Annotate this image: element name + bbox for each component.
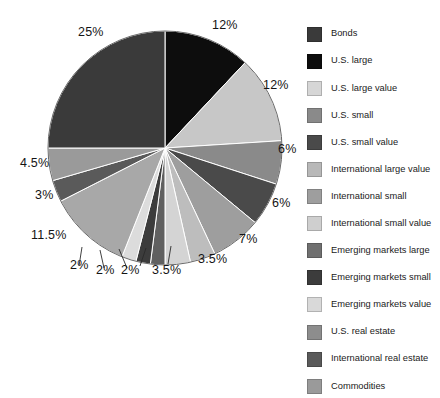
legend-item[interactable]: International small value [307, 216, 440, 232]
legend-item[interactable]: International small [307, 189, 440, 205]
legend-color-swatch-icon [307, 162, 322, 177]
legend-item-label: Emerging markets large [331, 246, 430, 255]
pie-slice-percentage-label: 6% [272, 196, 290, 210]
legend-item-label: International small value [331, 219, 431, 228]
legend-item-label: Bonds [331, 29, 357, 38]
legend-item[interactable]: Bonds [307, 26, 440, 42]
pie-slice-percentage-label: 7% [239, 232, 257, 246]
legend-item[interactable]: U.S. large value [307, 80, 440, 96]
pie-slice-percentage-label: 2% [121, 263, 139, 277]
pie-slice-percentage-label: 4.5% [20, 156, 49, 170]
legend-item-label: U.S. real estate [331, 327, 395, 336]
legend-item[interactable]: U.S. small [307, 107, 440, 123]
legend-color-swatch-icon [307, 297, 322, 312]
legend-item-label: Commodities [331, 382, 385, 391]
pie-slice-percentage-label: 3.5% [198, 252, 227, 266]
legend-item[interactable]: International large value [307, 161, 440, 177]
legend-color-swatch-icon [307, 189, 322, 204]
legend-item[interactable]: U.S. small value [307, 134, 440, 150]
pie-slice-percentage-label: 12% [263, 78, 289, 92]
legend-color-swatch-icon [307, 81, 322, 96]
legend-color-swatch-icon [307, 135, 322, 150]
legend-color-swatch-icon [307, 216, 322, 231]
legend-item-label: U.S. large value [331, 84, 397, 93]
legend-item[interactable]: U.S. large [307, 53, 440, 69]
legend-color-swatch-icon [307, 243, 322, 258]
legend-item[interactable]: U.S. real estate [307, 324, 440, 340]
legend-color-swatch-icon [307, 352, 322, 367]
pie-slice-percentage-label: 25% [78, 25, 104, 39]
legend-item[interactable]: Emerging markets value [307, 297, 440, 313]
legend-item-label: Emerging markets small [331, 273, 431, 282]
legend-item-label: U.S. large [331, 56, 372, 65]
legend-item-label: International real estate [331, 354, 428, 363]
legend-item-label: U.S. small [331, 111, 373, 120]
pie-slice-percentage-label: 2% [96, 263, 114, 277]
legend-item[interactable]: Commodities [307, 378, 440, 394]
pie-slice-percentage-label: 6% [278, 142, 296, 156]
chart-legend: BondsU.S. largeU.S. large valueU.S. smal… [307, 26, 440, 398]
pie-slice[interactable] [48, 31, 165, 148]
legend-item[interactable]: Emerging markets small [307, 270, 440, 286]
legend-item[interactable]: International real estate [307, 351, 440, 367]
legend-color-swatch-icon [307, 379, 322, 394]
legend-color-swatch-icon [307, 108, 322, 123]
pie-slice-percentage-label: 3% [35, 188, 53, 202]
legend-color-swatch-icon [307, 27, 322, 42]
legend-color-swatch-icon [307, 54, 322, 69]
pie-chart-plot-area: 12%12%6%6%7%3.5%3.5%2%2%2%11.5%3%4.5%25% [0, 0, 300, 300]
legend-item[interactable]: Emerging markets large [307, 243, 440, 259]
pie-slice-percentage-label: 3.5% [152, 263, 181, 277]
legend-item-label: Emerging markets value [331, 300, 431, 309]
legend-color-swatch-icon [307, 270, 322, 285]
legend-item-label: International small [331, 192, 406, 201]
pie-slice-percentage-label: 11.5% [31, 228, 67, 242]
legend-color-swatch-icon [307, 325, 322, 340]
pie-slice-percentage-label: 12% [212, 18, 238, 32]
pie-slice-percentage-label: 2% [70, 258, 88, 272]
pie-chart-svg [0, 0, 300, 300]
legend-item-label: U.S. small value [331, 138, 398, 147]
legend-item-label: International large value [331, 165, 430, 174]
